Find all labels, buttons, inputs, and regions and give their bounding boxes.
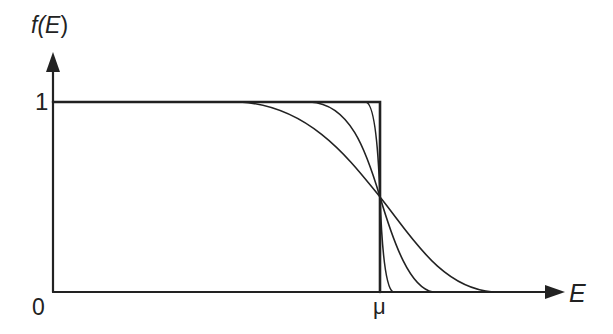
x-axis-label: E xyxy=(569,281,586,306)
fermi-dirac-plot xyxy=(0,0,613,334)
curve-low-t xyxy=(53,102,393,292)
y-axis-label: f(E) xyxy=(31,14,68,37)
y-tick-zero: 0 xyxy=(32,296,45,319)
curve-t0-step xyxy=(53,102,380,292)
y-axis-arrow-icon xyxy=(46,52,60,72)
x-axis-arrow-icon xyxy=(545,285,565,299)
mu-tick-label: μ xyxy=(373,296,386,318)
y-tick-one: 1 xyxy=(35,90,48,114)
curve-high-t xyxy=(53,102,493,292)
